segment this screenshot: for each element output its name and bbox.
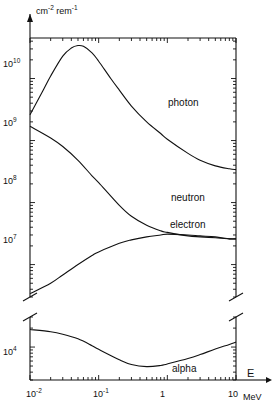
curve-photon — [30, 45, 236, 169]
figure-container: cm-2 rem-1 E MeV 1010109108107104 10-210… — [0, 0, 274, 410]
y-axis-unit-label: cm-2 rem-1 — [36, 6, 78, 16]
x-tick-label: 10-2 — [26, 389, 42, 399]
y-tick-label: 109 — [3, 118, 17, 128]
plot-svg — [0, 0, 274, 410]
x-tick-label: 10-1 — [93, 389, 109, 399]
y-tick-label: 107 — [3, 235, 17, 245]
x-tick-label: 10 — [228, 389, 238, 399]
y-tick-label: 104 — [3, 347, 17, 357]
curve-label-photon: photon — [168, 97, 199, 108]
curves-group — [30, 45, 236, 366]
curve-alpha — [30, 330, 236, 367]
x-axis-symbol-label: E — [247, 367, 254, 379]
y-tick-label: 1010 — [3, 59, 20, 69]
x-axis-unit-label: MeV — [243, 392, 262, 402]
curve-label-neutron: neutron — [171, 192, 205, 203]
y-tick-label: 108 — [3, 176, 17, 186]
ticks-group — [30, 38, 236, 380]
curve-label-electron: electron — [170, 219, 206, 230]
x-tick-label: 1 — [160, 389, 165, 399]
curve-label-alpha: alpha — [172, 363, 196, 374]
curve-electron — [30, 234, 236, 294]
